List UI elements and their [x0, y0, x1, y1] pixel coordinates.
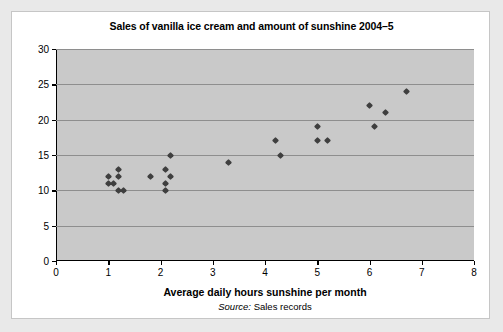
x-tick-label: 4: [262, 267, 268, 278]
gridline: [56, 155, 474, 156]
source-note: Source: Sales records: [56, 301, 474, 312]
x-axis-title: Average daily hours sunshine per month: [56, 286, 474, 298]
x-tick-label: 7: [419, 267, 425, 278]
x-tick-mark: [108, 261, 109, 265]
y-tick-label: 30: [38, 44, 49, 55]
x-tick-mark: [213, 261, 214, 265]
chart-title: Sales of vanilla ice cream and amount of…: [12, 20, 491, 32]
x-tick-mark: [474, 261, 475, 265]
y-tick-mark: [52, 84, 56, 85]
y-tick-label: 0: [43, 256, 49, 267]
y-tick-label: 25: [38, 79, 49, 90]
x-tick-mark: [56, 261, 57, 265]
x-tick-label: 3: [210, 267, 216, 278]
y-tick-mark: [52, 120, 56, 121]
y-tick-label: 15: [38, 150, 49, 161]
x-tick-label: 0: [53, 267, 59, 278]
plot-frame: 051015202530 012345678: [56, 49, 474, 261]
gridline: [56, 226, 474, 227]
gridline: [56, 120, 474, 121]
x-tick-label: 8: [471, 267, 477, 278]
x-tick-mark: [370, 261, 371, 265]
x-tick-mark: [265, 261, 266, 265]
y-tick-label: 5: [43, 220, 49, 231]
gridline: [56, 49, 474, 50]
y-tick-mark: [52, 190, 56, 191]
x-tick-mark: [161, 261, 162, 265]
x-tick-label: 5: [314, 267, 320, 278]
x-tick-mark: [422, 261, 423, 265]
y-tick-mark: [52, 226, 56, 227]
source-label: Source:: [218, 301, 253, 312]
x-tick-mark: [317, 261, 318, 265]
x-tick-label: 6: [367, 267, 373, 278]
x-tick-label: 1: [105, 267, 111, 278]
y-tick-label: 20: [38, 114, 49, 125]
y-tick-mark: [52, 49, 56, 50]
y-tick-mark: [52, 155, 56, 156]
x-tick-label: 2: [158, 267, 164, 278]
source-value: Sales records: [254, 301, 312, 312]
gridline: [56, 84, 474, 85]
y-tick-label: 10: [38, 185, 49, 196]
chart-card: Sales of vanilla ice cream and amount of…: [11, 11, 490, 319]
